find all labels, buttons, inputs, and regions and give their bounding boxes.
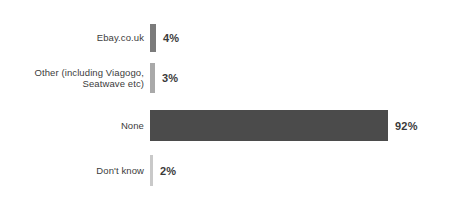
bar-track: 4%: [150, 24, 454, 52]
bar: [150, 110, 388, 141]
value-label: 4%: [156, 32, 179, 44]
value-label: 92%: [388, 120, 418, 132]
chart-row: None 92%: [0, 110, 454, 141]
value-label: 2%: [153, 165, 176, 177]
bar-track: 92%: [150, 110, 454, 141]
bar-track: 2%: [150, 155, 454, 186]
value-label: 3%: [155, 72, 178, 84]
category-label: Ebay.co.uk: [0, 32, 150, 44]
bar-track: 3%: [150, 63, 454, 93]
chart-row: Ebay.co.uk 4%: [0, 24, 454, 52]
chart-row: Don't know 2%: [0, 155, 454, 186]
bar-chart: Ebay.co.uk 4% Other (including Viagogo, …: [0, 0, 454, 203]
category-label: None: [0, 120, 150, 132]
category-label: Don't know: [0, 165, 150, 177]
category-label: Other (including Viagogo, Seatwave etc): [0, 67, 150, 90]
chart-row: Other (including Viagogo, Seatwave etc) …: [0, 63, 454, 93]
